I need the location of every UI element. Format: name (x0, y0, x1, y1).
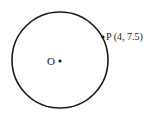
center-dot (58, 59, 61, 62)
circle-diagram: O P (4, 7.5) (0, 0, 158, 115)
center-label: O (47, 55, 55, 67)
point-p-dot (101, 35, 104, 38)
point-p-label: P (4, 7.5) (106, 31, 143, 43)
